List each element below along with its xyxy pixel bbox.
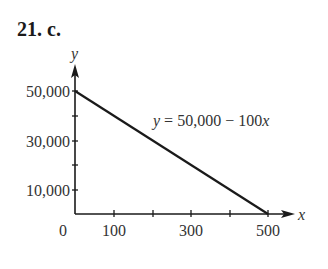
y-tick-label: 30,000: [26, 133, 70, 150]
line-chart: 50,000 30,000 10,000 0 100 300 500 y x y…: [0, 0, 328, 269]
x-tick-label: 500: [256, 222, 280, 239]
eq-rest: = 50,000 − 100: [160, 112, 262, 129]
y-axis-label: y: [69, 45, 79, 63]
x-axis-label: x: [297, 206, 305, 223]
eq-x: x: [261, 112, 269, 129]
x-tick-label: 0: [59, 222, 67, 239]
x-tick-label: 100: [102, 222, 126, 239]
y-tick-label: 10,000: [26, 182, 70, 199]
x-tick-label: 300: [179, 222, 203, 239]
series-line: [75, 91, 268, 214]
equation-annotation: y = 50,000 − 100x: [151, 112, 269, 130]
y-tick-label: 50,000: [26, 83, 70, 100]
